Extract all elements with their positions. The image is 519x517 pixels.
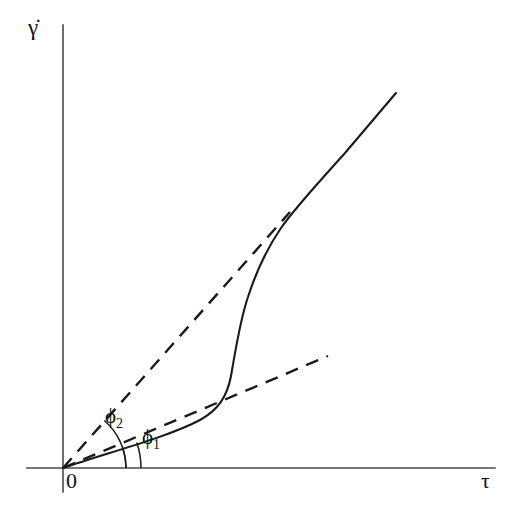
x-axis-label: τ (481, 470, 490, 492)
phi1-asymptote-line (63, 356, 328, 468)
phi1-subscript: 1 (153, 437, 160, 452)
phi2-symbol: ϕ (105, 404, 116, 428)
phi1-angle-arc (137, 443, 141, 468)
phi1-inner-arc (123, 448, 126, 469)
flow-curve-figure: γ̇ τ 0 ϕ2 ϕ1 (0, 0, 519, 517)
phi2-angle-label: ϕ2 (105, 406, 123, 431)
phi2-subscript: 2 (116, 416, 123, 431)
y-axis-label: γ̇ (28, 16, 38, 39)
plot-canvas (0, 0, 519, 517)
phi1-symbol: ϕ (142, 425, 153, 449)
phi1-angle-label: ϕ1 (142, 427, 160, 452)
origin-label: 0 (66, 470, 77, 492)
